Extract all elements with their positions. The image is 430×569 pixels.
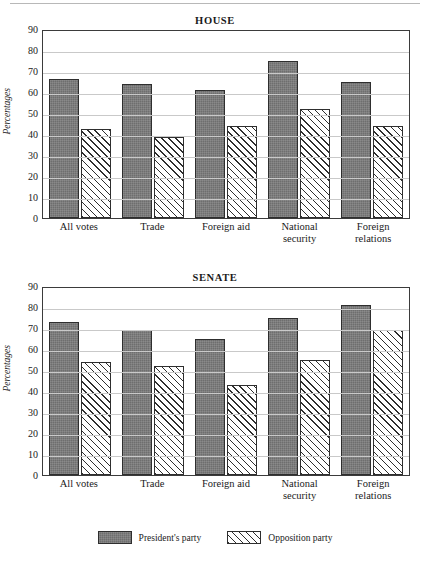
y-tick-90: 90 xyxy=(14,282,38,292)
y-tick-30: 30 xyxy=(14,408,38,418)
gridline-20 xyxy=(43,435,409,436)
x-tick-label: Foreign aid xyxy=(189,221,263,245)
house-chart-title: HOUSE xyxy=(0,14,430,28)
bar-group xyxy=(336,288,409,475)
x-tick-label: Foreignrelations xyxy=(336,221,410,245)
legend-label: President's party xyxy=(139,533,202,543)
senate-x-tick-labels: All votesTradeForeign aidNationalsecurit… xyxy=(42,478,410,502)
house-y-axis-label: Percentages xyxy=(2,41,12,88)
y-tick-70: 70 xyxy=(14,67,38,77)
y-tick-60: 60 xyxy=(14,88,38,98)
page-top-rule xyxy=(10,3,420,4)
gridline-50 xyxy=(43,115,409,116)
bar[interactable] xyxy=(227,385,257,475)
gridline-40 xyxy=(43,136,409,137)
y-tick-0: 0 xyxy=(14,214,38,224)
bar[interactable] xyxy=(268,61,298,219)
gridline-30 xyxy=(43,157,409,158)
legend-item[interactable]: Opposition party xyxy=(227,531,332,544)
gridline-80 xyxy=(43,52,409,53)
y-tick-40: 40 xyxy=(14,130,38,140)
legend-label: Opposition party xyxy=(268,533,332,543)
y-tick-40: 40 xyxy=(14,387,38,397)
y-tick-20: 20 xyxy=(14,172,38,182)
bar[interactable] xyxy=(81,129,111,218)
senate-chart-title: SENATE xyxy=(0,271,430,285)
bar-group xyxy=(263,288,336,475)
bar[interactable] xyxy=(300,109,330,218)
y-tick-80: 80 xyxy=(14,303,38,313)
y-tick-80: 80 xyxy=(14,46,38,56)
bar[interactable] xyxy=(49,79,79,218)
bar[interactable] xyxy=(122,84,152,218)
x-tick-label: All votes xyxy=(42,478,116,502)
y-tick-0: 0 xyxy=(14,471,38,481)
chart-legend: President's partyOpposition party xyxy=(0,531,430,544)
gridline-70 xyxy=(43,330,409,331)
house-plot-area: Percentages 9080706050403020100 All vote… xyxy=(0,30,430,230)
x-tick-label: Foreign aid xyxy=(189,478,263,502)
house-plot-frame xyxy=(42,30,410,219)
x-tick-label: Trade xyxy=(116,478,190,502)
gridline-60 xyxy=(43,94,409,95)
bar[interactable] xyxy=(373,126,403,218)
x-tick-label: Nationalsecurity xyxy=(263,478,337,502)
bar-group xyxy=(189,31,262,218)
gridline-30 xyxy=(43,414,409,415)
gridline-70 xyxy=(43,73,409,74)
bar[interactable] xyxy=(81,362,111,475)
house-x-tick-labels: All votesTradeForeign aidNationalsecurit… xyxy=(42,221,410,245)
bar-group xyxy=(116,31,189,218)
bar[interactable] xyxy=(341,82,371,219)
senate-bar-groups xyxy=(43,288,409,475)
bar[interactable] xyxy=(154,366,184,475)
bar[interactable] xyxy=(227,126,257,218)
bar[interactable] xyxy=(300,360,330,476)
legend-item[interactable]: President's party xyxy=(98,531,202,544)
legend-swatch xyxy=(227,531,261,544)
x-tick-label: Trade xyxy=(116,221,190,245)
bar-group xyxy=(43,288,116,475)
y-tick-90: 90 xyxy=(14,25,38,35)
bar-group xyxy=(336,31,409,218)
senate-plot-area: Percentages 9080706050403020100 All vote… xyxy=(0,287,430,487)
bar-group xyxy=(116,288,189,475)
y-tick-60: 60 xyxy=(14,345,38,355)
gridline-50 xyxy=(43,372,409,373)
gridline-60 xyxy=(43,351,409,352)
gridline-40 xyxy=(43,393,409,394)
house-chart: HOUSE Percentages 9080706050403020100 Al… xyxy=(0,14,430,270)
legend-swatch xyxy=(98,531,132,544)
senate-y-axis-label: Percentages xyxy=(2,298,12,345)
gridline-80 xyxy=(43,309,409,310)
bar[interactable] xyxy=(195,339,225,476)
y-tick-10: 10 xyxy=(14,450,38,460)
x-tick-label: All votes xyxy=(42,221,116,245)
y-tick-50: 50 xyxy=(14,366,38,376)
bar-group xyxy=(43,31,116,218)
senate-plot-frame xyxy=(42,287,410,476)
gridline-10 xyxy=(43,199,409,200)
senate-chart: SENATE Percentages 9080706050403020100 A… xyxy=(0,271,430,529)
bar[interactable] xyxy=(268,318,298,476)
house-y-tick-labels: 9080706050403020100 xyxy=(12,30,38,219)
bar-group xyxy=(189,288,262,475)
y-tick-70: 70 xyxy=(14,324,38,334)
x-tick-label: Foreignrelations xyxy=(336,478,410,502)
gridline-20 xyxy=(43,178,409,179)
y-tick-10: 10 xyxy=(14,193,38,203)
y-tick-50: 50 xyxy=(14,109,38,119)
gridline-10 xyxy=(43,456,409,457)
y-tick-20: 20 xyxy=(14,429,38,439)
bar[interactable] xyxy=(49,322,79,475)
bar-group xyxy=(263,31,336,218)
house-bar-groups xyxy=(43,31,409,218)
senate-y-tick-labels: 9080706050403020100 xyxy=(12,287,38,476)
x-tick-label: Nationalsecurity xyxy=(263,221,337,245)
y-tick-30: 30 xyxy=(14,151,38,161)
